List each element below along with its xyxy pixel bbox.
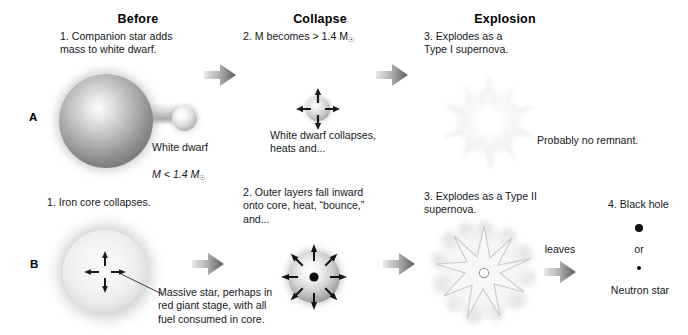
row-b-step2-text: 2. Outer layers fall inward onto core, h… [243, 186, 428, 226]
row-a-step1-text: 1. Companion star adds mass to white dwa… [60, 30, 235, 57]
type-ii-supernova-graphic [420, 212, 550, 332]
row-b-step4-text: 4. Black hole [608, 198, 688, 211]
arrow-b-2-icon [382, 251, 416, 277]
white-dwarf-caption: White dwarf M < 1.4 M☉ [152, 128, 247, 198]
row-a-step3-text: 3. Explodes as a Type I supernova. [424, 30, 584, 57]
column-header-explosion: Explosion [425, 12, 585, 26]
row-label-b: B [30, 258, 38, 270]
radial-infall-arrows-icon [275, 238, 353, 316]
arrow-b-1-icon [191, 251, 225, 277]
or-label: or [619, 243, 659, 256]
neutron-star-dot-icon [637, 266, 641, 270]
black-hole-dot-icon [635, 224, 643, 232]
type-i-supernova-graphic [434, 72, 544, 172]
white-dwarf-mass-line: M < 1.4 M☉ [152, 168, 247, 184]
infalling-layers-graphic [275, 238, 353, 316]
inward-arrows-icon [295, 87, 341, 131]
sun-symbol-icon-2: ☉ [348, 36, 354, 43]
row-a-step2-label: 2. M becomes > 1.4 M [243, 30, 348, 42]
row-a-step2-text: 2. M becomes > 1.4 M☉ [243, 30, 413, 46]
arrow-a-1-icon [203, 62, 237, 88]
row-a-step3-caption: Probably no remnant. [537, 134, 677, 147]
neutron-star-label: Neutron star [600, 284, 680, 297]
row-a-step2-caption: White dwarf collapses, heats and... [270, 129, 400, 156]
sun-symbol-icon: ☉ [199, 174, 205, 181]
companion-star [59, 74, 153, 168]
row-b-step1-text: 1. Iron core collapses. [47, 196, 232, 209]
core-dot [309, 272, 318, 281]
white-dwarf-mass-text: M < 1.4 M [152, 168, 199, 180]
remnant-core-ring [479, 268, 488, 277]
column-header-before: Before [48, 12, 228, 26]
column-header-collapse: Collapse [245, 12, 395, 26]
white-dwarf-caption-line1: White dwarf [152, 141, 247, 154]
supernova-diagram: Before Collapse Explosion A B 1. Compani… [0, 0, 688, 335]
leaves-label: leaves [535, 243, 585, 256]
arrow-a-2-icon [375, 62, 409, 88]
arrow-b-3-icon [543, 259, 577, 285]
white-dwarf-collapse-graphic [295, 87, 341, 131]
row-label-a: A [29, 111, 37, 123]
